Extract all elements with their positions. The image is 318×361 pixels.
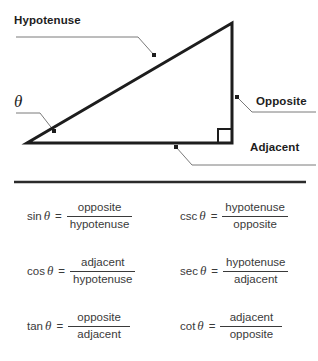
opposite-dot bbox=[235, 95, 239, 99]
formula-cot: cotθ = adjacent opposite bbox=[180, 300, 282, 352]
theta-leader bbox=[16, 113, 54, 131]
formula-cos-name: cosθ bbox=[27, 263, 53, 279]
formula-sin-equals: = bbox=[50, 210, 67, 222]
formula-sin-numerator: opposite bbox=[75, 201, 124, 214]
formula-cot-name: cotθ bbox=[180, 318, 204, 334]
opposite-label: Opposite bbox=[256, 95, 307, 107]
formula-sin-fraction: opposite hypotenuse bbox=[67, 201, 132, 231]
formula-sec-equals: = bbox=[206, 265, 223, 277]
formula-sec-name: secθ bbox=[180, 263, 206, 279]
fraction-bar bbox=[70, 271, 135, 272]
formula-csc-name: cscθ bbox=[180, 208, 206, 224]
formula-tan-fraction: opposite adjacent bbox=[68, 311, 130, 341]
formula-csc-fraction: hypotenuse opposite bbox=[222, 201, 287, 231]
fraction-bar bbox=[223, 271, 288, 272]
formula-tan-numerator: opposite bbox=[74, 311, 123, 324]
formula-tan-denominator: adjacent bbox=[74, 328, 123, 341]
theta-label: θ bbox=[14, 92, 22, 112]
fraction-bar bbox=[222, 216, 287, 217]
formula-sin-denominator: hypotenuse bbox=[67, 218, 132, 231]
formula-csc-equals: = bbox=[206, 210, 223, 222]
formula-sec: secθ = hypotenuse adjacent bbox=[180, 245, 288, 297]
formula-csc: cscθ = hypotenuse opposite bbox=[180, 190, 288, 242]
formula-tan: tanθ = opposite adjacent bbox=[27, 300, 130, 352]
formula-tan-equals: = bbox=[51, 320, 68, 332]
formula-cot-denominator: opposite bbox=[227, 328, 276, 341]
formula-tan-name: tanθ bbox=[27, 318, 51, 334]
hypotenuse-label: Hypotenuse bbox=[14, 14, 81, 26]
formula-cos-numerator: adjacent bbox=[78, 256, 127, 269]
leader-dots bbox=[52, 53, 239, 149]
formula-sec-numerator: hypotenuse bbox=[223, 256, 288, 269]
formula-cot-equals: = bbox=[204, 320, 221, 332]
hypotenuse-leader bbox=[16, 37, 154, 55]
formula-cot-fraction: adjacent opposite bbox=[220, 311, 282, 341]
right-triangle bbox=[27, 23, 232, 143]
adjacent-label: Adjacent bbox=[250, 141, 299, 153]
formula-cos: cosθ = adjacent hypotenuse bbox=[27, 245, 135, 297]
fraction-bar bbox=[220, 326, 282, 327]
formula-csc-denominator: opposite bbox=[230, 218, 279, 231]
formula-cos-fraction: adjacent hypotenuse bbox=[70, 256, 135, 286]
formula-cos-equals: = bbox=[53, 265, 70, 277]
formula-cot-numerator: adjacent bbox=[227, 311, 276, 324]
trig-formula-list: sinθ = opposite hypotenuse cosθ = adjace… bbox=[0, 190, 318, 361]
formula-sec-fraction: hypotenuse adjacent bbox=[223, 256, 288, 286]
fraction-bar bbox=[67, 216, 132, 217]
formula-cos-denominator: hypotenuse bbox=[70, 273, 135, 286]
formula-sin-name: sinθ bbox=[27, 208, 50, 224]
right-angle-marker bbox=[218, 129, 232, 143]
hypotenuse-dot bbox=[152, 53, 156, 57]
adjacent-dot bbox=[174, 145, 178, 149]
formula-csc-numerator: hypotenuse bbox=[222, 201, 287, 214]
fraction-bar bbox=[68, 326, 130, 327]
formula-sin: sinθ = opposite hypotenuse bbox=[27, 190, 132, 242]
formula-sec-denominator: adjacent bbox=[231, 273, 280, 286]
